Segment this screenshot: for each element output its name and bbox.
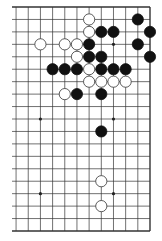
- white-stone[interactable]: [96, 201, 107, 212]
- black-stone[interactable]: [96, 26, 107, 37]
- black-stone[interactable]: [71, 64, 82, 75]
- black-stone[interactable]: [108, 26, 119, 37]
- star-point: [112, 117, 115, 120]
- white-stone[interactable]: [71, 39, 82, 50]
- white-stone[interactable]: [96, 76, 107, 87]
- black-stone[interactable]: [120, 64, 131, 75]
- black-stone[interactable]: [144, 26, 155, 37]
- white-stone[interactable]: [84, 26, 95, 37]
- star-point: [112, 192, 115, 195]
- black-stone[interactable]: [84, 51, 95, 62]
- white-stone[interactable]: [35, 39, 46, 50]
- white-stone[interactable]: [84, 76, 95, 87]
- white-stone[interactable]: [71, 51, 82, 62]
- white-stone[interactable]: [59, 39, 70, 50]
- black-stone[interactable]: [84, 39, 95, 50]
- black-stone[interactable]: [96, 64, 107, 75]
- white-stone[interactable]: [84, 64, 95, 75]
- black-stone[interactable]: [96, 51, 107, 62]
- black-stone[interactable]: [96, 89, 107, 100]
- black-stone[interactable]: [108, 64, 119, 75]
- black-stone[interactable]: [47, 64, 58, 75]
- black-stone[interactable]: [132, 14, 143, 25]
- black-stone[interactable]: [71, 89, 82, 100]
- go-board[interactable]: [0, 0, 162, 241]
- white-stone[interactable]: [108, 76, 119, 87]
- black-stone[interactable]: [132, 39, 143, 50]
- black-stone[interactable]: [59, 64, 70, 75]
- black-stone[interactable]: [96, 126, 107, 137]
- star-point: [39, 192, 42, 195]
- white-stone[interactable]: [96, 176, 107, 187]
- star-point: [112, 43, 115, 46]
- star-point: [39, 117, 42, 120]
- black-stone[interactable]: [144, 51, 155, 62]
- white-stone[interactable]: [120, 76, 131, 87]
- white-stone[interactable]: [84, 14, 95, 25]
- white-stone[interactable]: [59, 89, 70, 100]
